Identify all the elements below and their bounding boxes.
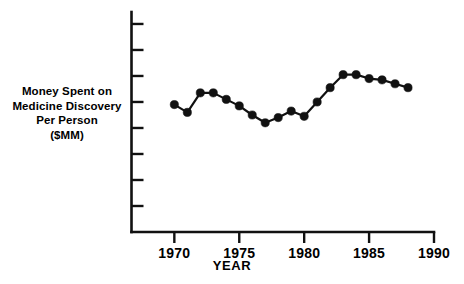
data-point-marker	[326, 84, 334, 92]
chart-container: Money Spent on Medicine Discovery Per Pe…	[0, 0, 464, 284]
x-axis-title: YEAR	[0, 258, 464, 273]
data-point-marker	[391, 80, 399, 88]
data-point-marker	[300, 112, 308, 120]
data-point-marker	[196, 89, 204, 97]
data-point-marker	[248, 111, 256, 119]
data-point-marker	[404, 84, 412, 92]
data-point-marker	[183, 108, 191, 116]
data-point-marker	[365, 74, 373, 82]
data-point-marker	[209, 89, 217, 97]
data-point-marker	[352, 71, 360, 79]
data-point-marker	[287, 107, 295, 115]
data-point-marker	[378, 76, 386, 84]
axes	[132, 12, 435, 232]
y-axis-ticks	[132, 24, 144, 206]
data-point-marker	[235, 102, 243, 110]
line-chart-plot	[0, 0, 464, 284]
data-point-marker	[274, 113, 282, 121]
data-series-line	[174, 75, 408, 123]
x-axis-ticks	[174, 232, 434, 243]
data-point-marker	[261, 119, 269, 127]
data-point-marker	[313, 98, 321, 106]
data-point-marker	[222, 95, 230, 103]
series-polyline	[174, 75, 408, 123]
data-point-marker	[339, 71, 347, 79]
data-point-marker	[170, 100, 178, 108]
